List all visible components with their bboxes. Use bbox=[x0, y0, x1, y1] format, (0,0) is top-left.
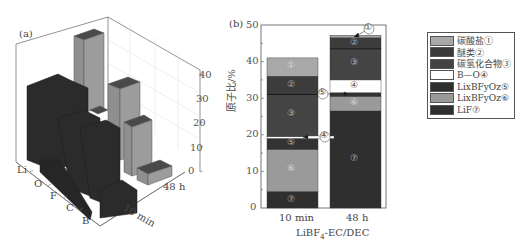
legend-item-hydrocarbon: 碳氢化合物③ bbox=[430, 58, 512, 70]
seg-48h-4: ④ bbox=[350, 80, 358, 90]
legend-swatch bbox=[430, 82, 454, 92]
x-axis-label-main: LiBF bbox=[296, 227, 320, 238]
seg-10min-5: ⑤ bbox=[287, 137, 295, 147]
seg-48h-2: ② bbox=[350, 37, 358, 47]
legend-label: LixBFyOz⑤ bbox=[457, 82, 509, 92]
legend-item-b-o: B—O④ bbox=[430, 70, 512, 82]
seg-48h-3: ③ bbox=[350, 57, 358, 67]
seg-10min-1: ① bbox=[287, 60, 295, 70]
callout-1: ① bbox=[364, 22, 372, 32]
seg-48h-7: ⑦ bbox=[350, 153, 358, 163]
x-axis-label: LiBF4-EC/DEC bbox=[296, 227, 369, 241]
legend-swatch bbox=[430, 36, 454, 46]
x-cat-10min: 10 min bbox=[279, 212, 314, 223]
seg-48h-6: ⑥ bbox=[350, 97, 358, 107]
legend-swatch bbox=[430, 59, 454, 69]
legend-item-lixbfyoz-6: LixBFyOz⑥ bbox=[430, 93, 512, 105]
legend-label: LiF⑦ bbox=[457, 105, 480, 115]
x-axis-label-rest: -EC/DEC bbox=[325, 227, 370, 238]
legend-swatch bbox=[430, 47, 454, 57]
legend-label: 碳氢化合物③ bbox=[457, 57, 511, 70]
legend-label: B—O④ bbox=[457, 70, 488, 80]
legend-label: LixBFyOz⑥ bbox=[457, 93, 509, 103]
callout-5: ⑤ bbox=[318, 87, 326, 97]
legend-swatch bbox=[430, 70, 454, 80]
legend-swatch bbox=[430, 105, 454, 115]
callout-4: ④ bbox=[320, 130, 328, 140]
legend: 碳酸盐① 醚类② 碳氢化合物③ B—O④ LixBFyOz⑤ LixBFyOz⑥… bbox=[427, 32, 515, 119]
legend-item-lixbfyoz-5: LixBFyOz⑤ bbox=[430, 81, 512, 93]
seg-10min-6: ⑥ bbox=[287, 163, 295, 173]
legend-swatch bbox=[430, 93, 454, 103]
legend-item-lif: LiF⑦ bbox=[430, 104, 512, 116]
x-cat-48h: 48 h bbox=[346, 212, 368, 223]
seg-10min-7: ⑦ bbox=[287, 194, 295, 204]
seg-10min-3: ③ bbox=[287, 108, 295, 118]
seg-10min-2: ② bbox=[287, 79, 295, 89]
